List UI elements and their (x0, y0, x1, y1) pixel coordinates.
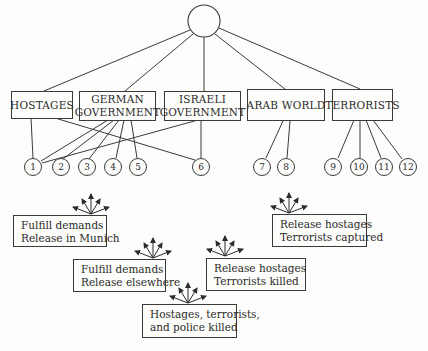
outcome-line-2: and police killed (150, 321, 236, 334)
outcome-line-1: Fulfill demands (81, 263, 165, 276)
option-node-12: 12 (399, 158, 417, 176)
outcome-line-2: Terrorists captured (280, 231, 366, 244)
option-node-6: 6 (192, 158, 210, 176)
outcome-line-2: Release in Munich (21, 232, 106, 245)
actor-label-line-2: GOVERNMENT (160, 106, 246, 119)
option-node-5: 5 (129, 158, 147, 176)
actor-label: TERRORISTS (325, 99, 400, 112)
option-node-3: 3 (78, 158, 96, 176)
actor-label-line-1: GERMAN (91, 93, 144, 106)
actor-label-line-2: GOVERNMENT (75, 106, 161, 119)
outcome-box-release-elsewhere: Fulfill demands Release elsewhere (73, 259, 166, 292)
actor-box-israeli-government: ISRAELI GOVERNMENT (164, 91, 241, 121)
diagram-connectors (0, 0, 428, 351)
option-node-4: 4 (104, 158, 122, 176)
outcome-line-1: Fulfill demands (21, 219, 106, 232)
actor-box-arab-world: ARAB WORLD (247, 89, 325, 121)
actor-box-terrorists: TERRORISTS (332, 89, 393, 121)
actor-label: ARAB WORLD (247, 99, 326, 112)
actor-box-german-government: GERMAN GOVERNMENT (79, 91, 156, 121)
outcome-box-terrorists-killed: Release hostages Terrorists killed (206, 258, 306, 291)
actor-box-hostages: HOSTAGES (11, 91, 73, 119)
outcome-line-2: Terrorists killed (214, 275, 305, 288)
outcome-line-1: Hostages, terrorists, (150, 308, 236, 321)
option-node-10: 10 (350, 158, 368, 176)
option-node-7: 7 (253, 158, 271, 176)
option-node-1: 1 (24, 158, 42, 176)
outcome-line-1: Release hostages (214, 262, 305, 275)
outcome-line-2: Release elsewhere (81, 276, 165, 289)
option-node-9: 9 (324, 158, 342, 176)
actor-label-line-1: ISRAELI (179, 93, 226, 106)
outcome-box-release-in-munich: Fulfill demands Release in Munich (13, 215, 107, 247)
option-node-2: 2 (52, 158, 70, 176)
option-node-11: 11 (375, 158, 393, 176)
outcome-box-terrorists-captured: Release hostages Terrorists captured (272, 214, 367, 247)
outcome-line-1: Release hostages (280, 218, 366, 231)
actor-label: HOSTAGES (10, 99, 74, 112)
option-node-8: 8 (277, 158, 295, 176)
outcome-box-all-killed: Hostages, terrorists, and police killed (142, 304, 237, 338)
